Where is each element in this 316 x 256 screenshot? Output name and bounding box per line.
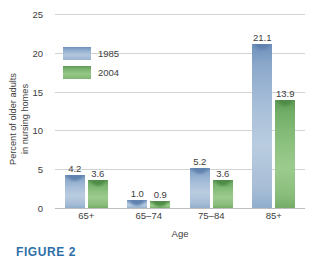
x-axis-ticks: 65+65–7475–8485+: [55, 210, 305, 224]
bar-1985-65+[interactable]: 4.2: [65, 175, 85, 208]
bar-slot: 13.9: [275, 14, 295, 208]
y-axis-tick-label: 10: [3, 125, 43, 136]
bar-value-label: 1.0: [131, 188, 144, 199]
bar-value-label: 4.2: [68, 163, 81, 174]
legend-swatch-icon-1985: [63, 47, 91, 60]
y-axis-tick-label: 15: [3, 86, 43, 97]
bar-1985-65–74[interactable]: 1.0: [127, 200, 147, 208]
legend-item-1985: 1985: [63, 46, 119, 61]
legend-item-2004: 2004: [63, 65, 119, 80]
bar-2004-85+[interactable]: 13.9: [275, 100, 295, 208]
bar-slot: 5.2: [190, 14, 210, 208]
bar-group: 4.23.6: [55, 14, 118, 208]
bar-1985-75–84[interactable]: 5.2: [190, 168, 210, 208]
x-axis-title: Age: [55, 228, 305, 239]
bar-group: 1.00.9: [118, 14, 181, 208]
bar-group: 21.113.9: [243, 14, 306, 208]
plot-area: 2520151050 4.23.61.00.95.23.621.113.9: [55, 14, 305, 208]
bar-slot: 0.9: [150, 14, 170, 208]
bar-2004-65–74[interactable]: 0.9: [150, 201, 170, 208]
bar-slot: 4.2: [65, 14, 85, 208]
figure-caption: FIGURE 2: [16, 245, 76, 256]
bar-group: 5.23.6: [180, 14, 243, 208]
y-axis-tick-label: 20: [3, 47, 43, 58]
bar-2004-65+[interactable]: 3.6: [88, 180, 108, 208]
bar-value-label: 3.6: [91, 168, 104, 179]
bar-value-label: 5.2: [193, 156, 206, 167]
bar-value-label: 0.9: [154, 189, 167, 200]
y-axis-tick-label: 25: [3, 9, 43, 20]
bar-slot: 21.1: [252, 14, 272, 208]
bar-groups: 4.23.61.00.95.23.621.113.9: [55, 14, 305, 208]
bar-slot: 3.6: [213, 14, 233, 208]
bar-value-label: 21.1: [253, 32, 272, 43]
x-axis-tick-label: 65+: [55, 210, 118, 224]
y-axis-tick-label: 0: [3, 203, 43, 214]
bar-1985-85+[interactable]: 21.1: [252, 44, 272, 208]
bar-slot: 3.6: [88, 14, 108, 208]
bar-2004-75–84[interactable]: 3.6: [213, 180, 233, 208]
legend-label-2004: 2004: [98, 67, 119, 78]
x-axis-tick-label: 75–84: [180, 210, 243, 224]
bar-value-label: 3.6: [216, 168, 229, 179]
bar-value-label: 13.9: [276, 88, 295, 99]
x-axis-tick-label: 65–74: [118, 210, 181, 224]
gridline: [55, 208, 305, 209]
legend: 1985 2004: [63, 46, 119, 84]
bar-slot: 1.0: [127, 14, 147, 208]
bar-chart: Percent of older adults in nursing homes…: [0, 0, 316, 256]
legend-swatch-icon-2004: [63, 66, 91, 79]
y-axis-tick-label: 5: [3, 164, 43, 175]
legend-label-1985: 1985: [98, 48, 119, 59]
x-axis-tick-label: 85+: [243, 210, 306, 224]
